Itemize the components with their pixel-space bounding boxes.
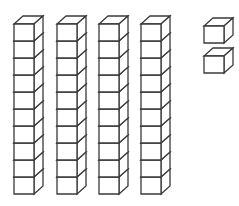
blocks-figure-canvas: Base-ten blocks representation [0,0,239,206]
cube-front-face [99,143,119,160]
cube-front-face [141,92,161,109]
cube-front-face [57,126,77,143]
cube-front-face [14,109,34,126]
cube-front-face [141,160,161,177]
unit-cube-cell [141,16,170,41]
cube-front-face [99,75,119,92]
cube-front-face [141,58,161,75]
tens-rod-2 [57,16,86,194]
cube-front-face [14,41,34,58]
ones-cube-2 [204,48,233,73]
cube-front-face [141,41,161,58]
cube-front-face [204,26,224,43]
cube-front-face [57,92,77,109]
unit-cube-cell [14,16,43,41]
tens-rod-3 [99,16,128,194]
cube-front-face [141,24,161,41]
cube-front-face [57,58,77,75]
cube-front-face [99,160,119,177]
unit-cube-cell [204,18,233,43]
cube-front-face [14,160,34,177]
unit-cube-cell [57,16,86,41]
unit-cube-cell [99,16,128,41]
ones-cube-1 [204,18,233,43]
base-ten-blocks-illustration [0,0,239,206]
cube-front-face [57,109,77,126]
cube-front-face [141,143,161,160]
cube-front-face [14,92,34,109]
cube-front-face [57,41,77,58]
cube-front-face [99,41,119,58]
cube-front-face [99,24,119,41]
cube-front-face [57,143,77,160]
cube-front-face [57,177,77,194]
cube-front-face [99,92,119,109]
tens-rod-4 [141,16,170,194]
cube-front-face [14,177,34,194]
tens-rods-group [14,16,170,194]
tens-rod-1 [14,16,43,194]
cube-front-face [141,109,161,126]
cube-front-face [99,109,119,126]
cube-front-face [14,24,34,41]
cube-front-face [99,177,119,194]
cube-front-face [14,58,34,75]
cube-front-face [141,177,161,194]
cube-front-face [141,126,161,143]
cube-front-face [99,126,119,143]
cube-front-face [204,56,224,73]
cube-front-face [57,160,77,177]
cube-front-face [141,75,161,92]
unit-cube-cell [204,48,233,73]
cube-front-face [99,58,119,75]
cube-front-face [14,126,34,143]
cube-front-face [57,24,77,41]
ones-cubes-group [204,18,233,73]
cube-front-face [14,143,34,160]
cube-front-face [14,75,34,92]
cube-front-face [57,75,77,92]
